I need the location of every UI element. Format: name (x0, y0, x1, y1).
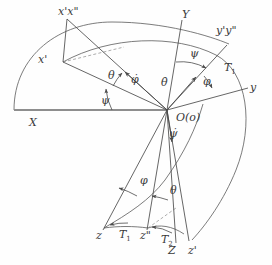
ray-x-prime (63, 62, 167, 110)
axis-label-z-prime: z' (188, 245, 197, 256)
axis-label-z-double-prime: z" (140, 230, 151, 241)
axis-label-y-prime-y-double-prime: y'y" (216, 25, 237, 36)
angle-label-psi-top-right: ψ (190, 48, 199, 59)
angle-label-phi-bottom: φ (140, 175, 148, 186)
angle-arcs (106, 62, 212, 233)
axis-label-X: X (29, 117, 37, 128)
arc-X-to-yprime (14, 22, 229, 110)
angle-label-theta-bottom: θ (170, 185, 177, 196)
angle-label-theta-dot: θ̇ (161, 77, 168, 88)
origin-rays (63, 19, 248, 243)
dashed-construction-lines (63, 47, 176, 228)
plane-label-T1-bottom: T1 (119, 229, 131, 243)
arc-angle-theta-bottom (152, 196, 168, 200)
angle-label-phi-right: φ (203, 76, 211, 87)
angle-label-phi-dot: φ̇ (131, 74, 139, 85)
axis-label-Y: Y (182, 9, 189, 20)
ray-y (167, 88, 248, 110)
sphere-arcs (14, 22, 246, 240)
euler-angles-figure: X Y Z y z z' z" x' x'x" y'y" O(o) ψ θ φ̇… (0, 0, 272, 265)
arc-angle-psi-top-right (176, 62, 206, 68)
arc-xprime-through-Y (63, 41, 246, 240)
plane-label-T2-bottom-subscript: 2 (168, 240, 172, 248)
axis-label-x-prime: x' (38, 54, 47, 65)
axis-label-x-prime-x-double-prime: x'x" (58, 6, 79, 17)
angle-label-psi-upper-left: ψ (101, 95, 110, 106)
axis-label-z: z (96, 230, 102, 241)
plane-label-T2-bottom: T2 (161, 234, 173, 248)
angle-label-theta-upper-left: θ (108, 70, 115, 81)
plane-label-T1-right: T1 (224, 62, 236, 76)
plane-label-T1-bottom-subscript: 1 (126, 235, 130, 243)
segment-xprime-to-vertex (63, 19, 67, 62)
dashed-zdp-link (148, 208, 176, 228)
origin-label: O(o) (176, 112, 200, 123)
angle-label-psi-dot: ψ̇ (169, 128, 178, 139)
diagram-canvas (0, 0, 272, 265)
axis-label-y: y (250, 82, 256, 93)
plane-label-T1-right-subscript: 1 (231, 68, 235, 76)
